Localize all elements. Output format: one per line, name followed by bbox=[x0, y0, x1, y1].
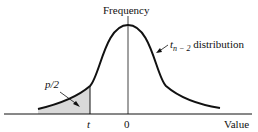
t-tick-label: t bbox=[87, 118, 91, 130]
t-distribution-diagram: Frequency Value 0 t p/2 tn − 2 distribut… bbox=[0, 0, 258, 132]
curve-name-sub: n − 2 bbox=[173, 44, 190, 53]
curve-name-suffix: distribution bbox=[190, 38, 244, 50]
tail-area-label: p/2 bbox=[44, 78, 60, 90]
x-axis-label: Value bbox=[224, 118, 249, 130]
zero-tick-label: 0 bbox=[124, 118, 130, 130]
y-axis-label: Frequency bbox=[103, 4, 150, 16]
curve-name-label: tn − 2 distribution bbox=[170, 38, 244, 53]
curve-label-arrow-head bbox=[156, 48, 162, 53]
